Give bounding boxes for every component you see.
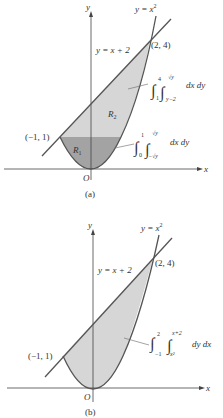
line-label: y = x + 2 — [95, 45, 130, 55]
svg-text:2: 2 — [157, 331, 160, 337]
region-shaded — [63, 258, 153, 389]
figure-a: x y y = x2 y = x + 2 (2, 4) (−1, 1) O R1… — [4, 2, 208, 199]
y-axis-label: y — [87, 220, 92, 230]
x-axis-label: x — [205, 383, 210, 393]
svg-text:dx dy: dx dy — [186, 80, 205, 90]
x-axis-arrow-icon — [197, 167, 203, 171]
origin-label: O — [83, 173, 90, 183]
svg-text:x²: x² — [169, 351, 175, 357]
point-label-2-4: (2, 4) — [155, 258, 175, 268]
svg-text:dy dx: dy dx — [192, 339, 211, 349]
svg-text:x+2: x+2 — [171, 330, 182, 336]
point-label-2-4: (2, 4) — [151, 40, 171, 50]
point-label-neg1-1: (−1, 1) — [28, 351, 53, 361]
x-axis-label: x — [203, 164, 208, 174]
figure-b: x y y = x2 y = x + 2 (2, 4) (−1, 1) O ∫ … — [7, 220, 211, 417]
svg-text:√y: √y — [152, 130, 158, 136]
diagram-canvas: x y y = x2 y = x + 2 (2, 4) (−1, 1) O R1… — [0, 0, 223, 418]
integral-r2: ∫ ∫ 4 1 √y y−2 dx dy — [150, 74, 205, 103]
y-axis-label: y — [85, 2, 90, 12]
x-axis-arrow-icon — [199, 386, 205, 390]
integral-r1: ∫ ∫ 1 0 √y −√y dx dy — [133, 130, 189, 160]
svg-text:−1: −1 — [155, 351, 161, 357]
point-label-neg1-1: (−1, 1) — [25, 132, 50, 142]
caption-b: (b) — [85, 407, 96, 417]
svg-text:∫: ∫ — [159, 84, 166, 103]
curve-label-parabola: y = x2 — [140, 222, 163, 233]
integral-b: ∫ ∫ 2 −1 x+2 x² dy dx — [149, 330, 211, 357]
svg-text:√y: √y — [168, 74, 174, 80]
curve-label-parabola: y = x2 — [134, 3, 157, 14]
svg-text:1: 1 — [156, 95, 159, 101]
origin-label: O — [84, 392, 91, 402]
caption-a: (a) — [85, 189, 95, 199]
svg-text:y−2: y−2 — [165, 96, 176, 102]
line-label: y = x + 2 — [97, 265, 132, 275]
svg-text:0: 0 — [139, 152, 142, 158]
svg-text:1: 1 — [141, 132, 144, 138]
svg-text:4: 4 — [158, 76, 161, 82]
svg-text:dx dy: dx dy — [170, 137, 189, 147]
svg-text:−√y: −√y — [148, 153, 158, 159]
